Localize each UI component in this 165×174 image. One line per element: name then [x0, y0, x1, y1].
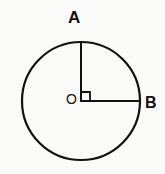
- point-label-b: B: [145, 95, 157, 111]
- point-label-a: A: [68, 9, 80, 26]
- point-label-o: O: [66, 92, 77, 106]
- right-angle-marker-icon: [81, 92, 90, 101]
- geometry-canvas: [0, 0, 165, 174]
- geometry-diagram: A B O: [0, 0, 165, 174]
